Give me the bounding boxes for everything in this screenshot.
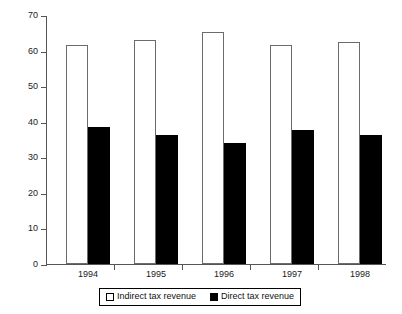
bar-indirect-1998 (338, 42, 360, 264)
y-tick-70: 70 (46, 16, 47, 17)
y-tick-mark (41, 194, 46, 195)
legend-label-direct: Direct tax revenue (221, 291, 294, 302)
chart-legend: Indirect tax revenue Direct tax revenue (99, 288, 301, 306)
bar-group-1995 (134, 15, 178, 264)
y-tick-10: 10 (46, 229, 47, 230)
bar-indirect-1997 (270, 45, 292, 264)
bar-direct-1998 (360, 135, 382, 264)
bar-direct-1995 (156, 135, 178, 264)
x-axis-line (46, 264, 386, 265)
bar-direct-1994 (88, 127, 110, 264)
y-tick-label: 10 (14, 224, 38, 233)
plot-area: 010203040506070 19941995199619971998 (46, 16, 386, 265)
bar-indirect-1996 (202, 32, 224, 264)
y-tick-30: 30 (46, 158, 47, 159)
y-tick-label: 20 (14, 189, 38, 198)
bar-direct-1996 (224, 143, 246, 264)
bar-group-1996 (202, 15, 246, 264)
bar-chart: % of total tax revenue 010203040506070 1… (0, 0, 402, 314)
y-tick-50: 50 (46, 87, 47, 88)
y-tick-mark (41, 229, 46, 230)
x-axis-label-1998: 1998 (330, 269, 390, 279)
legend-label-indirect: Indirect tax revenue (117, 291, 196, 302)
y-tick-label: 40 (14, 118, 38, 127)
y-tick-label: 30 (14, 153, 38, 162)
y-tick-40: 40 (46, 123, 47, 124)
x-axis-label-1994: 1994 (58, 269, 118, 279)
y-tick-mark (41, 123, 46, 124)
y-tick-mark (41, 16, 46, 17)
bar-group-1994 (66, 15, 110, 264)
x-axis-label-1995: 1995 (126, 269, 186, 279)
x-axis-label-1996: 1996 (194, 269, 254, 279)
bar-group-1997 (270, 15, 314, 264)
y-tick-label: 50 (14, 82, 38, 91)
y-tick-mark (41, 265, 46, 266)
y-tick-20: 20 (46, 194, 47, 195)
legend-swatch-direct-icon (210, 293, 218, 301)
y-tick-label: 70 (14, 11, 38, 20)
y-tick-label: 60 (14, 47, 38, 56)
y-tick-0: 0 (46, 265, 47, 266)
bar-indirect-1995 (134, 40, 156, 264)
legend-swatch-indirect-icon (106, 293, 114, 301)
legend-item-indirect: Indirect tax revenue (106, 291, 196, 302)
y-tick-label: 0 (14, 260, 38, 269)
y-tick-mark (41, 158, 46, 159)
legend-item-direct: Direct tax revenue (210, 291, 294, 302)
y-tick-mark (41, 52, 46, 53)
bar-indirect-1994 (66, 45, 88, 264)
bar-group-1998 (338, 15, 382, 264)
y-tick-mark (41, 87, 46, 88)
y-tick-60: 60 (46, 52, 47, 53)
x-axis-label-1997: 1997 (262, 269, 322, 279)
bar-direct-1997 (292, 130, 314, 264)
